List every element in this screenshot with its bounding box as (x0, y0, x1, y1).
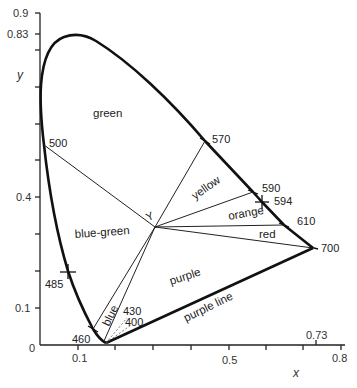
origin-label: 0 (29, 342, 35, 354)
y-axis (35, 13, 40, 345)
y-axis-label: y (16, 68, 24, 82)
x-tick-0.1: 0.1 (72, 352, 87, 364)
x-tick-0.8: 0.8 (332, 352, 347, 364)
wavelength-700: 700 (321, 242, 339, 254)
x-axis-label: x (292, 366, 300, 380)
region-blue-green: blue-green (74, 224, 130, 240)
x-tick-0.5: 0.5 (222, 354, 237, 366)
purple-line (106, 248, 313, 343)
wavelength-594: 594 (274, 195, 292, 207)
x-tick-0.73: 0.73 (306, 329, 327, 341)
wavelength-485: 485 (45, 278, 63, 290)
chromaticity-diagram: 0.9 0.83 y 0.4 0.1 0 0.1 0.5 0.73 0.8 x … (0, 0, 357, 388)
white-point-label: Y (144, 209, 156, 223)
wavelength-500: 500 (49, 137, 67, 149)
region-green: green (93, 107, 122, 119)
region-orange: orange (227, 204, 264, 222)
y-tick-0.83: 0.83 (7, 28, 28, 40)
y-tick-0.4: 0.4 (16, 191, 31, 203)
y-tick-0.9: 0.9 (13, 7, 28, 19)
wavelength-570: 570 (212, 133, 230, 145)
region-yellow: yellow (189, 173, 223, 202)
region-red: red (259, 228, 276, 240)
region-blue: blue (100, 303, 120, 328)
wavelength-460: 460 (72, 333, 90, 345)
region-purple: purple (168, 266, 202, 287)
wavelength-590: 590 (262, 182, 280, 194)
y-tick-0.1: 0.1 (15, 302, 30, 314)
wavelength-610: 610 (297, 215, 315, 227)
wavelength-400: 400 (125, 316, 143, 328)
